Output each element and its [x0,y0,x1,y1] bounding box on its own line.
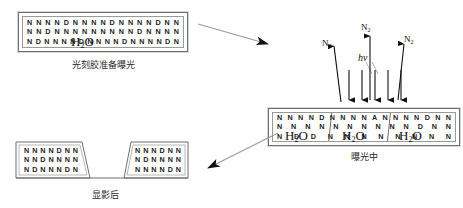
lattice-cell: N [27,27,32,37]
resist-inner-border-exposing: NNNNDNNNNANNNNDNNNNNNNNNNNNDNNNDDNNNNNNN… [272,112,456,142]
formula-h2o-exposing-3: H2O [399,129,422,144]
lattice-developed-left: NNNNDNNNNDNNNNNDNNNDN [20,146,82,174]
lattice-cell: N [139,37,144,47]
lattice-cell: N [165,18,170,28]
lattice-cell: N [429,132,434,142]
lattice-cell: N [174,18,179,28]
lattice-exposing-row: NNNNDNNNNANNNNDNN [277,113,451,123]
lattice-cell: N [159,155,164,165]
lattice-cell: N [159,165,164,175]
lattice-cell: N [298,113,303,123]
lattice-cell: D [65,165,70,175]
lattice-cell: N [73,18,78,28]
lattice-cell: N [143,165,148,175]
lattice-cell: N [135,155,140,165]
lattice-cell: D [155,18,160,28]
flow-arrow-prepare-to-exposing [198,24,268,44]
formula-h2o-prepare: H2O [71,35,94,50]
lattice-cell: N [361,113,366,123]
lattice-cell: N [73,165,78,175]
n2-label-left: N2 [322,38,332,49]
lattice-cell: N [27,18,32,28]
lattice-developed-right: NNNDNNNDNNNNNNNNDN [131,146,185,174]
lattice-cell: N [119,27,124,37]
lattice-cell: N [96,37,101,47]
lattice-cell: N [48,165,53,175]
lattice-cell: A [372,113,377,123]
lattice-cell: N [128,18,133,28]
caption-developed: 显影后 [50,188,160,201]
lattice-cell: N [57,165,62,175]
lattice-developed-left-row: NNNNDNN [24,146,78,156]
lattice-cell: D [165,37,170,47]
lattice-cell: N [62,37,67,47]
lattice-cell: N [277,122,282,132]
lattice-cell: N [32,155,37,165]
caption-prepare: 光刻胶准备曝光 [18,58,188,71]
lattice-cell: N [82,18,87,28]
lattice-cell: N [110,27,115,37]
lattice-cell: N [165,27,170,37]
lattice-cell: D [319,113,324,123]
lattice-cell: N [135,146,140,156]
caption-exposing: 曝光中 [268,150,460,163]
hv-label: hv [358,52,367,63]
lattice-cell: D [64,18,69,28]
lattice-cell: N [55,18,60,28]
lattice-cell: D [137,27,142,37]
lattice-cell: N [404,113,409,123]
lattice-cell: N [53,37,58,47]
lattice-cell: N [328,132,333,142]
lattice-cell: N [151,146,156,156]
lattice-cell: N [446,113,451,123]
lattice-cell: D [45,27,50,37]
lattice-cell: N [375,122,380,132]
lattice-cell: N [36,27,41,37]
lattice-cell: D [311,132,316,142]
lattice-cell: N [168,155,173,165]
lattice-cell: N [40,146,45,156]
lattice-cell: N [446,122,451,132]
lattice-cell: N [24,155,29,165]
n2-label-center: N2 [361,22,371,33]
lattice-cell: N [174,27,179,37]
lattice-cell: N [146,27,151,37]
lattice-cell: N [155,27,160,37]
lattice-cell: N [119,18,124,28]
lattice-cell: D [425,113,430,123]
lattice-cell: N [176,155,181,165]
lattice-cell: D [110,18,115,28]
lattice-cell: D [36,37,41,47]
lattice-cell: N [128,27,133,37]
lattice-cell: N [57,155,62,165]
lattice-cell: N [48,155,53,165]
lattice-cell: N [55,27,60,37]
lattice-developed-left-row: NNDNNNN [24,155,78,165]
lattice-developed-right-row: NNNNDN [135,165,181,175]
lattice-cell: N [414,113,419,123]
lattice-cell: N [446,132,451,142]
lattice-cell: N [174,37,179,47]
lattice-prepare-row: NDNNNNDNNNNDNNNNDN [27,37,179,47]
lattice-cell: N [146,18,151,28]
lattice-prepare-row: NNNNDNNNNDNNNNDNN [27,18,179,28]
resist-block-exposing: NNNNDNNNNANNNNDNNNNNNNNNNNNDNNNDDNNNNNNN… [268,108,460,146]
lattice-cell: N [65,146,70,156]
lattice-prepare-row: NNDNNNNNNNNNDNNNN [27,27,179,37]
lattice-cell: D [159,146,164,156]
formula-h2o-exposing-1: H2O [285,129,308,144]
formula-h2o-exposing-2: H2O [342,129,365,144]
lattice-prepare: NNNNDNNNNDNNNNDNNNNDNNNNNNNNNDNNNNNDNNNN… [23,17,183,47]
lattice-cell: N [333,122,338,132]
lattice-cell: N [432,122,437,132]
lattice-cell: N [73,155,78,165]
lithography-process-diagram: NNNNDNNNNDNNNNDNNNNDNNNNNNNNNDNNNNNDNNNN… [0,0,463,208]
lattice-cell: N [100,27,105,37]
lattice-cell: N [32,146,37,156]
lattice-cell: N [24,146,29,156]
lattice-cell: N [351,113,356,123]
lattice-cell: N [330,113,335,123]
lattice-cell: N [105,37,110,47]
n2-label-right: N2 [404,34,414,45]
lattice-cell: N [393,113,398,123]
